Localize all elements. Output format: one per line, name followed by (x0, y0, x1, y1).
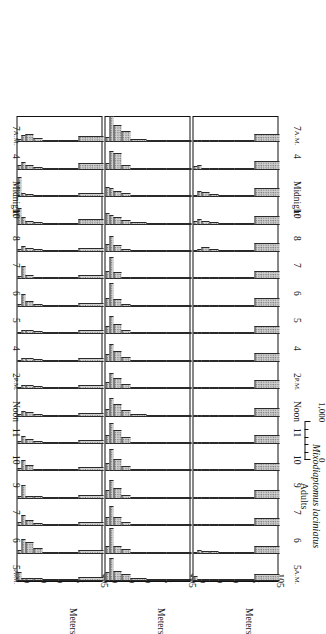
depth-bin-bar (21, 162, 25, 170)
depth-bin-bar (21, 515, 25, 526)
depth-bin-bar (58, 332, 78, 334)
depth-bin-bar (121, 131, 129, 142)
depth-bin-bar (197, 497, 201, 499)
scale-bar-tick (304, 437, 308, 438)
depth-bin-bar (105, 546, 109, 554)
depth-bin-bar (25, 496, 33, 499)
depth-bin-bar (33, 304, 41, 307)
depth-bin-bar (130, 578, 146, 581)
depth-bin-bar (234, 168, 254, 170)
time-profile-row (105, 307, 191, 334)
depth-bin-bar (78, 276, 103, 280)
depth-bin-bar (146, 195, 166, 197)
time-profile-row (17, 307, 103, 334)
depth-bin-bar (113, 546, 121, 554)
depth-bin-bar (234, 305, 254, 307)
depth-bin-bar (105, 435, 109, 444)
depth-bin-bar (78, 522, 103, 526)
depth-bin-bar (21, 385, 25, 390)
depth-bin-bar (234, 277, 254, 279)
depth-bin-bar (201, 524, 209, 526)
depth-bin-bar (109, 283, 113, 307)
depth-bin-bar (42, 195, 58, 197)
time-profile-row (105, 252, 191, 279)
depth-bin-bar (105, 354, 109, 362)
depth-bin-bar (166, 195, 191, 197)
depth-bin-bar (146, 223, 166, 225)
depth-bin-bar (78, 440, 103, 444)
depth-bin-bar (109, 188, 113, 197)
depth-bin-bar (166, 168, 191, 170)
depth-bin-bar (218, 469, 234, 471)
depth-bin-bar (21, 217, 25, 225)
depth-bin-bar (218, 140, 234, 142)
depth-bin-bar (197, 305, 201, 307)
depth-bin-bar (21, 539, 25, 554)
depth-bin-bar (201, 332, 209, 334)
depth-bin-bar (58, 497, 78, 499)
depth-bin-bar (42, 415, 58, 417)
depth-bin-bar (201, 387, 209, 389)
depth-bin-bar (193, 166, 197, 170)
depth-bin-bar (33, 331, 41, 334)
depth-bin-bar (201, 469, 209, 471)
time-profile-row (193, 115, 279, 142)
depth-bin-bar (166, 223, 191, 225)
depth-bin-bar (121, 522, 129, 526)
depth-bin-bar (42, 305, 58, 307)
depth-bin-bar (218, 250, 234, 252)
depth-bin-bar (166, 387, 191, 389)
scale-bar-tick (304, 429, 308, 430)
depth-bin-bar (109, 423, 113, 444)
depth-bin-bar (113, 488, 121, 499)
time-profile-row (105, 526, 191, 553)
depth-bin-bar (197, 360, 201, 362)
depth-bin-bar (25, 439, 33, 444)
depth-bin-bar (58, 195, 78, 197)
depth-bin-bar (42, 497, 58, 499)
depth-bin-bar (121, 193, 129, 197)
depth-bin-bar (78, 495, 103, 499)
depth-bin-bar (234, 497, 254, 499)
depth-bin-bar (58, 552, 78, 554)
depth-bin-bar (121, 466, 129, 471)
depth-bin-bar (130, 305, 146, 307)
time-profile-row (193, 225, 279, 252)
depth-bin-bar (78, 467, 103, 471)
depth-bin-bar (33, 523, 41, 526)
depth-bin-bar (197, 249, 201, 252)
time-tick-label: 4 (10, 154, 20, 159)
time-profile-row (17, 197, 103, 224)
depth-bin-bar (25, 275, 33, 280)
depth-bin-bar (146, 140, 166, 142)
depth-bin-bar (58, 360, 78, 362)
depth-bin-bar (109, 449, 113, 471)
depth-bin-bar (130, 524, 146, 526)
time-profile-row (193, 499, 279, 526)
depth-bin-bar (209, 442, 217, 444)
time-profile-row (17, 362, 103, 389)
time-profile-row (105, 170, 191, 197)
time-profile-row (105, 115, 191, 142)
depth-bin-bar (21, 578, 25, 581)
depth-bin-bar (17, 360, 21, 362)
time-tick-label: 7 (10, 263, 20, 268)
depth-bin-bar (25, 330, 33, 334)
time-profile-row (17, 252, 103, 279)
depth-bin-bar (121, 277, 129, 280)
depth-bin-bar (209, 524, 217, 526)
scale-bar-tick (304, 421, 310, 422)
depth-bin-bar (105, 187, 109, 198)
depth-bin-bar (113, 217, 121, 225)
depth-bin-bar (166, 360, 191, 362)
depth-bin-bar (42, 332, 58, 334)
depth-bin-bar (146, 387, 166, 389)
depth-bin-bar (78, 385, 103, 389)
depth-bin-bar (33, 414, 41, 417)
depth-bin-bar (25, 301, 33, 307)
time-tick-label: 4 (291, 346, 301, 351)
depth-bin-bar (105, 214, 109, 225)
depth-bin-bar (146, 524, 166, 526)
depth-bin-bar (197, 165, 201, 170)
